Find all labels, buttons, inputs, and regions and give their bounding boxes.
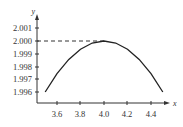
x-tick-label: 4.0 (99, 109, 110, 119)
x-axis-label: x (172, 99, 177, 108)
y-axis-label: y (30, 7, 35, 16)
y-tick-label: 1.998 (13, 62, 32, 72)
chart: y x 2.001 2.000 1.999 1.998 1.997 1.996 … (0, 0, 183, 127)
x-tick-label: 3.8 (75, 109, 86, 119)
y-tick-label: 1.997 (13, 74, 32, 84)
y-tick-label: 1.996 (13, 87, 32, 97)
y-tick-label: 1.999 (13, 49, 32, 59)
y-tick-labels: 2.001 2.000 1.999 1.998 1.997 1.996 (13, 23, 32, 97)
y-axis-arrow-icon (35, 14, 39, 20)
data-curve (45, 41, 163, 92)
x-tick-label: 4.4 (146, 109, 157, 119)
x-tick-label: 3.6 (52, 109, 63, 119)
x-tick-labels: 3.6 3.8 4.0 4.2 4.4 (52, 109, 157, 119)
x-tick-label: 4.2 (122, 109, 133, 119)
x-axis-arrow-icon (164, 101, 170, 105)
y-tick-label: 2.001 (13, 23, 32, 33)
y-tick-label: 2.000 (13, 36, 32, 46)
